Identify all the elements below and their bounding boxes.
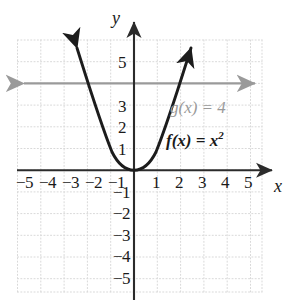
f-function-label-exponent: 2 [218,129,224,141]
y-axis-label: y [112,9,120,27]
g-function-label: g(x) = 4 [170,99,226,116]
x-tick-neg-1: −1 [108,174,125,191]
x-tick-3: 3 [198,174,206,191]
y-tick-neg-3: −3 [113,227,130,244]
y-tick-5: 5 [118,54,126,71]
x-tick-neg-2: −2 [85,174,102,191]
x-axis-label: x [274,177,282,195]
x-tick-neg-3: −3 [62,174,79,191]
coordinate-plane-svg [0,0,297,303]
x-tick-neg-4: −4 [39,174,56,191]
grid-lines [18,40,263,292]
x-tick-4: 4 [221,174,229,191]
y-tick-2: 2 [118,119,126,136]
graph-figure: y x 5 3 2 1 −1 −2 −3 −4 −5 −5 −4 −3 −2 −… [0,0,297,303]
x-tick-neg-5: −5 [16,174,33,191]
y-tick-neg-2: −2 [113,205,130,222]
f-function-label: f(x) = x2 [166,130,224,149]
y-tick-neg-4: −4 [113,248,130,265]
x-tick-2: 2 [175,174,183,191]
x-tick-1: 1 [152,174,160,191]
x-tick-5: 5 [244,174,252,191]
y-tick-neg-5: −5 [113,270,130,287]
y-tick-3: 3 [118,98,126,115]
f-function-label-base: f(x) = x [166,131,218,150]
y-tick-1: 1 [118,141,126,158]
